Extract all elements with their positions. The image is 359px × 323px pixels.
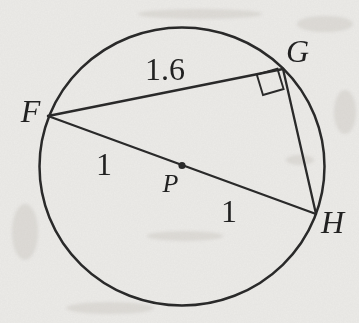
scan-smudge	[297, 16, 353, 32]
center-label-p: P	[162, 169, 179, 198]
point-label-f: F	[20, 93, 41, 129]
geometry-figure: F G H P 1.6 1 1	[0, 0, 359, 323]
point-label-g: G	[286, 33, 309, 69]
center-point-dot	[178, 162, 185, 169]
scan-smudge	[138, 9, 262, 19]
scan-smudge	[334, 90, 356, 134]
scan-smudge	[12, 204, 38, 260]
point-label-h: H	[320, 204, 346, 240]
length-label-fp: 1	[96, 146, 112, 182]
scan-smudge	[147, 231, 223, 241]
scanned-page: F G H P 1.6 1 1	[0, 0, 359, 323]
length-label-fg: 1.6	[145, 51, 185, 87]
length-label-ph: 1	[221, 193, 237, 229]
scan-smudge	[286, 155, 314, 165]
scan-smudge	[66, 302, 154, 314]
